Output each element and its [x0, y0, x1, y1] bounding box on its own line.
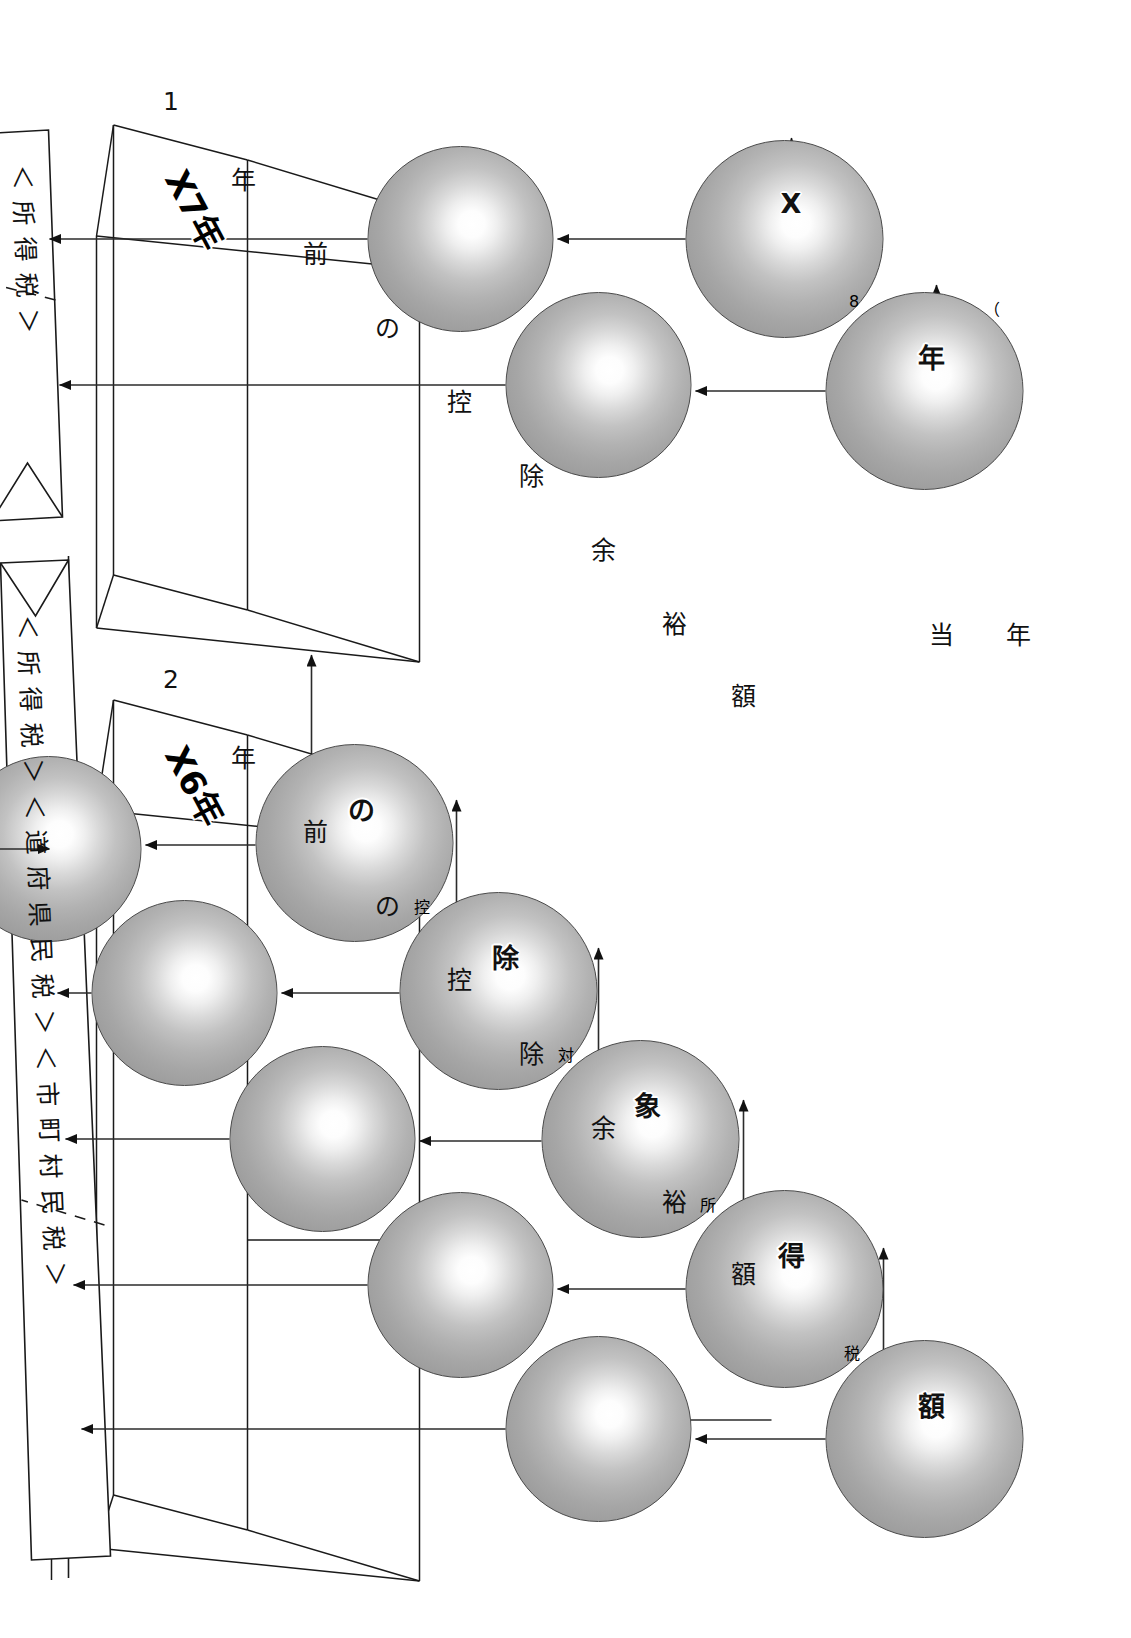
sphere-box-x7-2 — [367, 146, 553, 332]
box-x6-side-char-4: の — [374, 894, 399, 919]
box-x7-side-char-3: 前 — [302, 242, 327, 267]
sphere-seam-label-3: 対 — [557, 1042, 573, 1066]
sphere-box-x6-2 — [367, 1192, 553, 1378]
sphere-seam-label-left-1: （ — [983, 296, 999, 320]
box-x6-side-char-8: 裕 — [661, 1190, 686, 1215]
sphere-label: X — [780, 190, 801, 217]
sphere-seam-label-2: 所 — [699, 1192, 715, 1216]
sphere-label: 年 — [917, 345, 944, 372]
sphere-label: 得 — [777, 1243, 804, 1270]
sphere-box-x6-3 — [229, 1046, 415, 1232]
sphere-box-x6-1 — [505, 1336, 691, 1522]
box-x7-side-char-8: 裕 — [661, 612, 686, 637]
diagram-canvas: 額 得 象 除 の 税 所 対 控 年 X （ 8 — [0, 0, 1131, 1638]
diagram-page: 額 得 象 除 の 税 所 対 控 年 X （ 8 — [0, 0, 1131, 1638]
sphere-box-x7-1 — [505, 292, 691, 478]
sphere-box-x6-4 — [91, 900, 277, 1086]
sphere-seam-label-4: 控 — [413, 894, 429, 918]
sphere-label: 額 — [917, 1393, 944, 1420]
box-x7-side-char-7: 余 — [590, 538, 615, 563]
band-upper-label: ＜所得税＞＜道府県民税＞＜市町村民税＞ — [13, 614, 68, 1298]
box-x6-side-char-5: 控 — [446, 968, 471, 993]
box-x6-side-char-1: 2 — [163, 667, 179, 692]
sphere-seam-label-left-2: 8 — [848, 292, 858, 311]
box-x7-side-char-2: 年 — [230, 168, 255, 193]
box-x6-side-char-3: 前 — [302, 820, 327, 845]
current-year-label: 当 年 — [929, 623, 1053, 648]
sphere-top-1: 額 — [825, 1340, 1023, 1538]
band-lower-label: ＜所得税＞ — [8, 165, 41, 346]
box-x7-year-label: X7年 — [159, 165, 228, 255]
box-x7-side-char-9: 額 — [730, 684, 755, 709]
box-x7-side-char-1: 1 — [163, 89, 179, 114]
box-x7-side-char-6: 除 — [518, 464, 543, 489]
box-x6-side-char-9: 額 — [730, 1262, 755, 1287]
sphere-seam-label-1: 税 — [843, 1340, 859, 1364]
box-x6-side-char-7: 余 — [590, 1116, 615, 1141]
box-x7-side-char-5: 控 — [446, 390, 471, 415]
band-upper-endcap — [0, 560, 68, 616]
sphere-left-1: 年 — [825, 292, 1023, 490]
box-x7-side-char-4: の — [374, 316, 399, 341]
box-x6-year-label: X6年 — [159, 741, 228, 831]
band-lower-endcap — [0, 463, 62, 521]
box-x6-side-char-2: 年 — [230, 746, 255, 771]
sphere-label: の — [347, 797, 374, 824]
sphere-label: 象 — [633, 1093, 660, 1120]
box-x6-side-char-6: 除 — [518, 1042, 543, 1067]
sphere-label: 除 — [491, 945, 518, 972]
